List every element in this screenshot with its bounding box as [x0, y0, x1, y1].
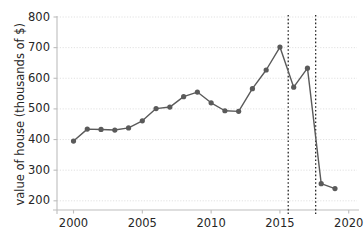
- x-tick-label-2005: 2005: [120, 216, 164, 230]
- data-point-2001: [85, 127, 90, 132]
- vertical-reference-lines-group: [288, 15, 316, 214]
- x-tick-label-2015: 2015: [258, 216, 302, 230]
- data-point-2013: [250, 86, 255, 91]
- data-point-2010: [209, 100, 214, 105]
- data-point-2014: [264, 67, 269, 72]
- x-tick-label-2020: 2020: [327, 216, 364, 230]
- data-point-2006: [153, 106, 158, 111]
- data-point-2005: [140, 118, 145, 123]
- data-point-2007: [167, 104, 172, 109]
- data-point-markers-group: [71, 44, 338, 191]
- data-point-2017: [305, 66, 310, 71]
- data-point-2018: [319, 181, 324, 186]
- data-point-2003: [112, 127, 117, 132]
- data-point-2000: [71, 138, 76, 143]
- x-tick-label-2010: 2010: [189, 216, 233, 230]
- data-point-2002: [98, 127, 103, 132]
- x-tick-label-2000: 2000: [52, 216, 96, 230]
- data-point-2015: [277, 44, 282, 49]
- line-chart-plot: [0, 0, 364, 246]
- data-point-2004: [126, 125, 131, 130]
- data-point-2012: [236, 109, 241, 114]
- y-axis-title: value of house (thousands of $): [13, 22, 27, 205]
- data-point-2016: [291, 85, 296, 90]
- data-point-2008: [181, 94, 186, 99]
- data-point-2009: [195, 89, 200, 94]
- data-point-2019: [332, 186, 337, 191]
- y-tick-label-800: 800: [0, 10, 50, 24]
- chart-figure: 200300400500600700800 200020052010201520…: [0, 0, 364, 246]
- data-point-2011: [222, 108, 227, 113]
- data-line-series: [74, 47, 335, 189]
